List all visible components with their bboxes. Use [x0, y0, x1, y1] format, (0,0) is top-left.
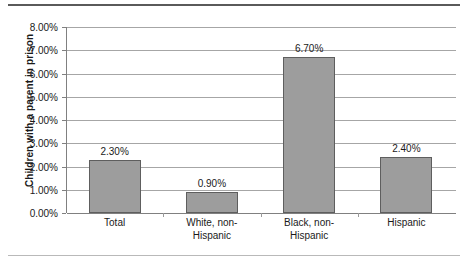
- bar-series: 2.30%0.90%6.70%2.40%: [66, 27, 455, 213]
- bar-value-label: 2.30%: [100, 146, 128, 157]
- y-axis-tick-label: 7.00%: [0, 45, 58, 56]
- y-axis-tick-mark: [62, 27, 66, 28]
- y-axis-tick-label: 8.00%: [0, 22, 58, 33]
- x-axis-label-line: Black, non-: [261, 216, 358, 229]
- bar-value-label: 0.90%: [198, 178, 226, 189]
- x-axis-label-line: Hispanic: [358, 216, 455, 229]
- y-axis-tick-mark: [62, 50, 66, 51]
- bar-slot: 0.90%: [163, 27, 260, 213]
- y-axis-tick-mark: [62, 120, 66, 121]
- x-axis-label-line: White, non-: [163, 216, 260, 229]
- y-axis-tick-mark: [62, 97, 66, 98]
- bar-value-label: 2.40%: [392, 143, 420, 154]
- bar-value-label: 6.70%: [295, 43, 323, 54]
- y-axis-tick-label: 5.00%: [0, 91, 58, 102]
- y-axis-tick-label: 0.00%: [0, 208, 58, 219]
- bar-slot: 2.40%: [358, 27, 455, 213]
- x-axis-label-line: Hispanic: [261, 229, 358, 242]
- bar[interactable]: [380, 157, 432, 213]
- x-axis-label-line: Total: [66, 216, 163, 229]
- x-axis-tick-label: Black, non-Hispanic: [261, 216, 358, 242]
- x-axis-tick-labels: TotalWhite, non-HispanicBlack, non-Hispa…: [66, 216, 455, 256]
- y-axis-tick-mark: [62, 213, 66, 214]
- y-axis-tick-label: 6.00%: [0, 68, 58, 79]
- bar[interactable]: [186, 192, 238, 213]
- bar-chart: Children with a parent in prison 0.00%1.…: [0, 0, 466, 268]
- y-axis-tick-label: 2.00%: [0, 161, 58, 172]
- y-axis-tick-label: 3.00%: [0, 138, 58, 149]
- y-axis-tick-label: 4.00%: [0, 115, 58, 126]
- y-axis-tick-mark: [62, 74, 66, 75]
- y-axis-tick-label: 1.00%: [0, 184, 58, 195]
- gridline: [67, 213, 456, 214]
- top-divider-rule: [8, 4, 460, 6]
- x-axis-tick-label: White, non-Hispanic: [163, 216, 260, 242]
- y-axis-tick-mark: [62, 167, 66, 168]
- y-axis-tick-mark: [62, 190, 66, 191]
- y-axis-tick-labels: 0.00%1.00%2.00%3.00%4.00%5.00%6.00%7.00%…: [0, 0, 62, 268]
- x-axis-tick-label: Hispanic: [358, 216, 455, 229]
- x-axis-tick-label: Total: [66, 216, 163, 229]
- bar[interactable]: [283, 57, 335, 213]
- y-axis-tick-mark: [62, 143, 66, 144]
- bar-slot: 2.30%: [66, 27, 163, 213]
- bar[interactable]: [89, 160, 141, 213]
- x-axis-label-line: Hispanic: [163, 229, 260, 242]
- bar-slot: 6.70%: [261, 27, 358, 213]
